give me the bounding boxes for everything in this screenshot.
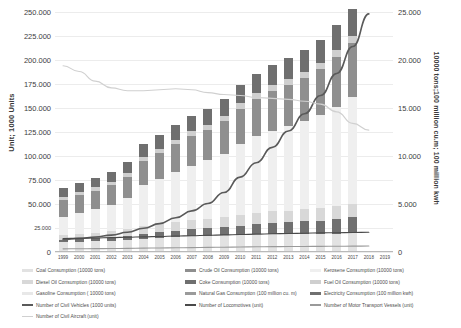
legend-swatch (22, 304, 33, 305)
x-axis-tick-label: 2016 (332, 255, 342, 260)
legend-item[interactable]: Diesel Oil Consumption (10000 tons) (22, 280, 182, 285)
legend-label: Electricity Consumption (100 million kwh… (324, 291, 413, 296)
legend-item[interactable]: Gasoline Consumption ( 10000 tons) (22, 291, 182, 296)
legend-swatch (310, 280, 321, 283)
x-axis-tick-label: 2007 (187, 255, 197, 260)
legend-label: Diesel Oil Consumption (10000 tons) (36, 280, 116, 285)
plot-area: 025.00050.00075.000100.000125.000150.000… (55, 12, 393, 252)
x-axis-tick-label: 2017 (348, 255, 358, 260)
x-axis-tick-label: 2009 (219, 255, 229, 260)
legend-item[interactable]: Kerosene Consumption (10000 tons) (310, 268, 450, 273)
y-axis-left-tick-label: 100.000 (24, 152, 51, 161)
x-axis-tick-label: 2006 (171, 255, 181, 260)
y-axis-left-tick-label: 125.000 (24, 128, 51, 137)
y-axis-left-tick-label: 50.000 (28, 200, 51, 209)
legend-item[interactable]: Coal Consumption (10000 tons) (22, 268, 182, 273)
x-axis-tick-label: 2003 (122, 255, 132, 260)
legend-label: Number of Civil Aircraft (unit) (36, 314, 99, 319)
y-axis-right-tick-label: 15.000 (398, 104, 421, 113)
legend-swatch (185, 269, 196, 272)
y-axis-left-title: Unit; 1000 Units (7, 78, 16, 168)
legend-label: Natural Gas Consumption (100 million cu.… (199, 291, 297, 296)
y-axis-left-tick-label: 75.000 (28, 176, 51, 185)
legend-swatch (310, 304, 321, 305)
x-axis-tick-label: 2008 (203, 255, 213, 260)
y-axis-left-tick-label: 150.000 (24, 104, 51, 113)
chart-figure: Unit; 1000 Units 10000 tons;100 million … (0, 0, 461, 328)
legend-swatch (22, 269, 33, 272)
x-axis-tick-label: 2019 (380, 255, 390, 260)
y-axis-left-tick-label: 250.000 (24, 8, 51, 17)
legend-item[interactable]: Coke Consumption (10000 tons) (185, 280, 325, 285)
x-axis-line (55, 251, 393, 252)
y-axis-left-tick-label: 0 (47, 248, 51, 257)
x-axis-tick-label: 2005 (154, 255, 164, 260)
y-axis-right-tick-label: 0 (398, 248, 402, 257)
y-axis-right-tick-label: 25.000 (398, 8, 421, 17)
legend-label: Coal Consumption (10000 tons) (36, 268, 105, 273)
legend-swatch (22, 292, 33, 295)
legend-label: Number of Civil Vehicles (1000 units) (36, 303, 116, 308)
x-axis-tick-label: 2012 (267, 255, 277, 260)
y-axis-right-tick-label: 10.000 (398, 152, 421, 161)
legend-swatch (185, 292, 196, 295)
x-axis-tick-label: 2011 (251, 255, 261, 260)
y-axis-right-title: 10000 tons;100 million cu.m; 100 million… (433, 52, 440, 192)
legend-item[interactable]: Number of Civil Aircraft (unit) (22, 314, 182, 319)
legend-label: Crude Oil Consumption (10000 tons) (199, 268, 279, 273)
x-axis-tick-label: 1999 (58, 255, 68, 260)
legend-swatch (185, 280, 196, 283)
y-axis-left-tick-label: 175.000 (24, 80, 51, 89)
legend-item[interactable]: Crude Oil Consumption (10000 tons) (185, 268, 325, 273)
x-axis-tick-label: 2014 (299, 255, 309, 260)
line-series (63, 14, 369, 240)
legend-label: Fuel Oil Consumption (10000 tons) (324, 280, 400, 285)
y-axis-left-tick-label: 200.000 (24, 56, 51, 65)
y-axis-right-tick-label: 20.000 (398, 56, 421, 65)
x-axis-tick-label: 2002 (106, 255, 116, 260)
x-axis-tick-label: 2001 (90, 255, 100, 260)
y-axis-left-tick-label: 225.000 (24, 32, 51, 41)
legend-item[interactable]: Number of Motor Transport Vessels (unit) (310, 303, 450, 308)
legend-label: Number of Locomotives (unit) (199, 303, 263, 308)
legend-item[interactable]: Number of Locomotives (unit) (185, 303, 325, 308)
gridline (55, 252, 393, 253)
legend-label: Gasoline Consumption ( 10000 tons) (36, 291, 116, 296)
legend-label: Kerosene Consumption (10000 tons) (324, 268, 404, 273)
legend-item[interactable]: Natural Gas Consumption (100 million cu.… (185, 291, 325, 296)
legend-swatch (310, 292, 321, 295)
line-series (63, 66, 369, 130)
x-axis-tick-label: 2013 (283, 255, 293, 260)
legend-item[interactable]: Number of Civil Vehicles (1000 units) (22, 303, 182, 308)
x-axis-tick-label: 2010 (235, 255, 245, 260)
legend-swatch (22, 280, 33, 283)
x-axis-tick-label: 2004 (138, 255, 148, 260)
legend-swatch (310, 269, 321, 272)
y-axis-right-tick-label: 5.000 (398, 200, 417, 209)
x-axis-tick-label: 2000 (74, 255, 84, 260)
x-axis-tick-label: 2015 (315, 255, 325, 260)
line-series (63, 246, 369, 249)
x-axis-tick-label: 2018 (364, 255, 374, 260)
line-series-layer (55, 12, 393, 252)
chart-legend: Coal Consumption (10000 tons)Diesel Oil … (22, 268, 442, 324)
y-axis-left-tick-label: 25.000 (34, 225, 51, 231)
legend-label: Coke Consumption (10000 tons) (199, 280, 269, 285)
legend-swatch (22, 316, 33, 317)
legend-item[interactable]: Fuel Oil Consumption (10000 tons) (310, 280, 450, 285)
legend-item[interactable]: Electricity Consumption (100 million kwh… (310, 291, 450, 296)
legend-label: Number of Motor Transport Vessels (unit) (324, 303, 413, 308)
legend-swatch (185, 304, 196, 305)
